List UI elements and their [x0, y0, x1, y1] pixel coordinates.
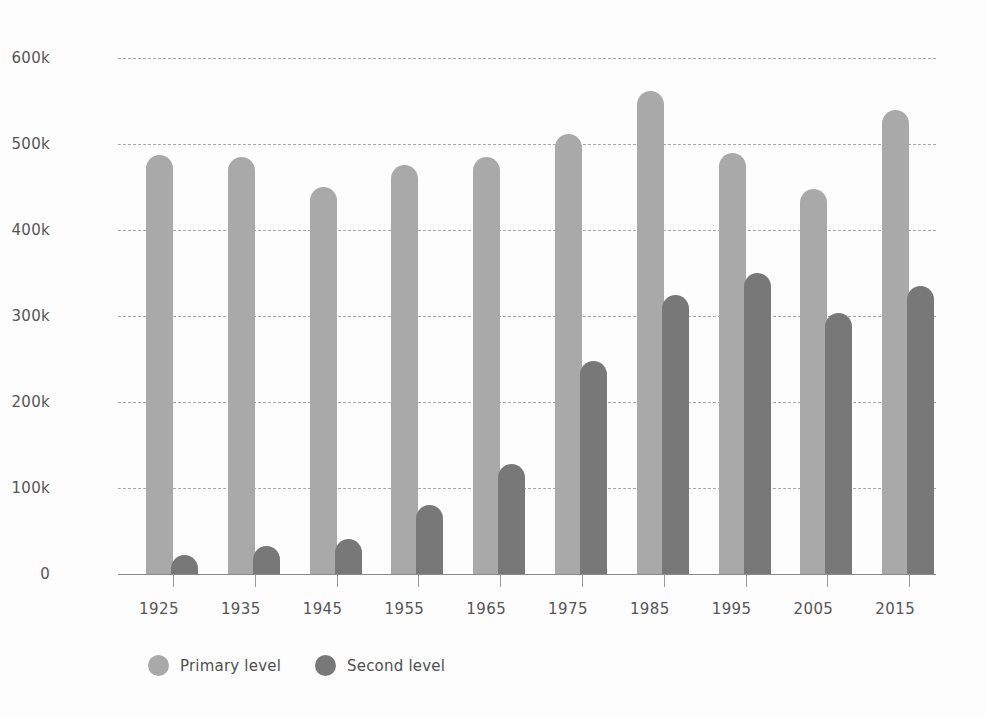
- x-axis-tick: [909, 574, 910, 587]
- second-level-bar: [662, 295, 689, 575]
- legend-label: Primary level: [180, 657, 281, 675]
- x-axis-tick-layer: [118, 574, 936, 588]
- primary-level-bar: [637, 91, 664, 574]
- second-level-bar: [744, 273, 771, 574]
- y-axis-tick-label: 600k: [0, 49, 50, 67]
- second-level-bar: [335, 539, 362, 574]
- circle-swatch-primary-icon: [148, 655, 169, 676]
- x-axis-tick-label: 1955: [364, 600, 444, 618]
- x-axis-label-layer: 1925193519451955196519751985199520052015: [118, 600, 936, 630]
- gridline: [118, 58, 936, 59]
- legend-item[interactable]: Primary level: [148, 655, 281, 676]
- x-axis-tick-label: 1975: [528, 600, 608, 618]
- second-level-bar: [498, 464, 525, 574]
- chart-legend: Primary levelSecond level: [148, 655, 445, 676]
- primary-level-bar: [391, 165, 418, 574]
- x-axis-tick: [746, 574, 747, 587]
- bar-chart: 0100k200k300k400k500k600k 19251935194519…: [0, 0, 986, 717]
- x-axis-tick-label: 2005: [773, 600, 853, 618]
- second-level-bar: [416, 505, 443, 574]
- primary-level-bar: [555, 134, 582, 574]
- primary-level-bar: [800, 189, 827, 574]
- primary-level-bar: [228, 157, 255, 574]
- plot-area: 0100k200k300k400k500k600k: [118, 58, 936, 574]
- second-level-bar: [171, 555, 198, 574]
- x-axis-tick-label: 1945: [283, 600, 363, 618]
- primary-level-bar: [882, 110, 909, 574]
- x-axis-tick-label: 1995: [692, 600, 772, 618]
- second-level-bar: [825, 313, 852, 574]
- primary-level-bar: [473, 157, 500, 574]
- second-level-bar: [580, 361, 607, 574]
- x-axis-tick: [255, 574, 256, 587]
- primary-level-bar: [719, 153, 746, 574]
- primary-level-bar: [146, 155, 173, 574]
- circle-swatch-secondary-icon: [315, 655, 336, 676]
- y-axis-tick-label: 400k: [0, 221, 50, 239]
- y-axis-tick-label: 300k: [0, 307, 50, 325]
- x-axis-tick: [500, 574, 501, 587]
- y-axis-tick-label: 500k: [0, 135, 50, 153]
- y-axis-tick-label: 0: [0, 565, 50, 583]
- x-axis-tick-label: 1985: [610, 600, 690, 618]
- x-axis-tick: [827, 574, 828, 587]
- x-axis-tick: [582, 574, 583, 587]
- legend-item[interactable]: Second level: [315, 655, 445, 676]
- y-axis-tick-label: 100k: [0, 479, 50, 497]
- x-axis-tick: [418, 574, 419, 587]
- y-axis-tick-label: 200k: [0, 393, 50, 411]
- primary-level-bar: [310, 187, 337, 574]
- gridline: [118, 144, 936, 145]
- x-axis-tick-label: 1965: [446, 600, 526, 618]
- second-level-bar: [907, 286, 934, 574]
- x-axis-tick-label: 1925: [119, 600, 199, 618]
- x-axis-tick: [173, 574, 174, 587]
- x-axis-tick-label: 1935: [201, 600, 281, 618]
- x-axis-tick: [337, 574, 338, 587]
- x-axis-tick: [664, 574, 665, 587]
- second-level-bar: [253, 546, 280, 574]
- legend-label: Second level: [347, 657, 445, 675]
- x-axis-tick-label: 2015: [855, 600, 935, 618]
